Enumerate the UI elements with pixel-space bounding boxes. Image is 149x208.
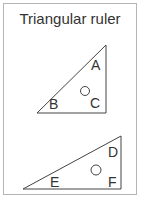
label-a: A: [91, 58, 100, 72]
label-c: C: [90, 96, 100, 110]
hole-circle-2: [91, 165, 101, 175]
triangle-ruler-2: [23, 136, 121, 189]
triangles-drawing: [0, 0, 149, 208]
label-f: F: [108, 175, 117, 189]
label-d: D: [108, 145, 118, 159]
label-b: B: [49, 97, 58, 111]
hole-circle-1: [81, 87, 90, 96]
label-e: E: [50, 175, 59, 189]
